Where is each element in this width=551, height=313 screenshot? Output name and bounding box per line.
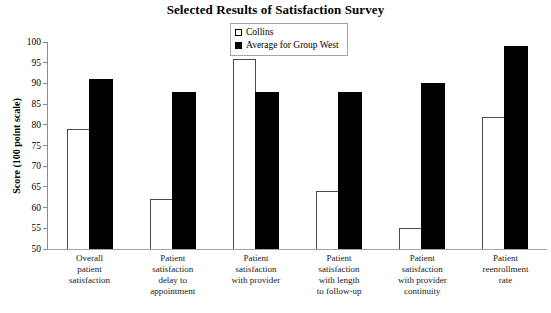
x-category-label-0: Overallpatientsatisfaction <box>47 253 133 286</box>
y-tick-label-90: 90 <box>32 78 42 88</box>
y-tick-mark-85 <box>43 104 47 105</box>
y-tick-mark-70 <box>43 166 47 167</box>
y-tick-mark-100 <box>43 42 47 43</box>
y-tick-label-85: 85 <box>32 99 42 109</box>
y-tick-mark-50 <box>43 249 47 250</box>
legend-item-collins: Collins <box>235 26 343 39</box>
bar-groups: OverallpatientsatisfactionPatientsatisfa… <box>48 42 547 249</box>
bar-group-west-0 <box>89 79 113 249</box>
bar-group-1: Patientsatisfactiondelay toappointment <box>131 42 214 249</box>
y-tick-mark-60 <box>43 207 47 208</box>
y-tick-label-95: 95 <box>32 58 42 68</box>
y-tick-mark-65 <box>43 186 47 187</box>
bar-group-west-5 <box>504 46 528 249</box>
y-tick-mark-95 <box>43 62 47 63</box>
y-tick-label-75: 75 <box>32 141 42 151</box>
y-tick-mark-80 <box>43 124 47 125</box>
chart-canvas: Selected Results of Satisfaction Survey … <box>0 0 551 313</box>
plot-area: OverallpatientsatisfactionPatientsatisfa… <box>47 42 547 250</box>
bar-group-5: Patientreenrollmentrate <box>464 42 547 249</box>
y-tick-label-65: 65 <box>32 182 42 192</box>
y-tick-mark-90 <box>43 83 47 84</box>
y-tick-label-80: 80 <box>32 120 42 130</box>
y-tick-label-100: 100 <box>27 37 41 47</box>
y-tick-mark-55 <box>43 228 47 229</box>
bar-group-west-3 <box>338 92 362 249</box>
y-tick-mark-75 <box>43 145 47 146</box>
bar-collins-3 <box>316 191 339 249</box>
y-tick-label-70: 70 <box>32 161 42 171</box>
y-tick-label-55: 55 <box>32 223 42 233</box>
bar-collins-4 <box>399 228 422 249</box>
x-category-label-2: Patientsatisfactionwith provider <box>213 253 299 286</box>
y-tick-label-50: 50 <box>32 244 42 254</box>
bar-group-4: Patientsatisfactionwith providercontinui… <box>381 42 464 249</box>
bar-group-3: Patientsatisfactionwith lengthto follow-… <box>298 42 381 249</box>
y-tick-label-60: 60 <box>32 203 42 213</box>
bar-group-west-4 <box>421 83 445 249</box>
bar-group-west-2 <box>255 92 279 249</box>
x-category-label-1: Patientsatisfactiondelay toappointment <box>130 253 216 297</box>
bar-group-west-1 <box>172 92 196 249</box>
bar-collins-0 <box>67 129 90 249</box>
bar-collins-5 <box>482 117 505 249</box>
x-category-label-5: Patientreenrollmentrate <box>462 253 548 286</box>
bar-group-0: Overallpatientsatisfaction <box>48 42 131 249</box>
chart-title: Selected Results of Satisfaction Survey <box>0 2 551 18</box>
bar-group-2: Patientsatisfactionwith provider <box>214 42 297 249</box>
y-axis-title: Score (100 point scale) <box>11 98 22 194</box>
bar-collins-2 <box>233 59 256 249</box>
x-category-label-3: Patientsatisfactionwith lengthto follow-… <box>296 253 382 297</box>
legend-label-collins: Collins <box>246 26 273 39</box>
legend-swatch-collins <box>235 29 242 36</box>
bar-collins-1 <box>150 199 173 249</box>
x-category-label-4: Patientsatisfactionwith providercontinui… <box>379 253 465 297</box>
